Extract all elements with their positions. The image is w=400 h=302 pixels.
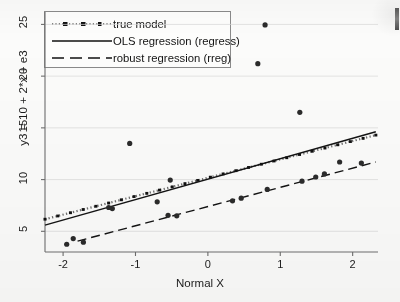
data-point bbox=[127, 141, 132, 146]
data-point bbox=[64, 242, 69, 247]
data-point bbox=[155, 199, 160, 204]
series-line-marker bbox=[56, 215, 59, 218]
y-tick-label: 5 bbox=[17, 209, 29, 249]
data-point bbox=[230, 198, 235, 203]
data-point bbox=[313, 174, 318, 179]
x-axis-title: Normal X bbox=[0, 277, 400, 289]
x-tick-label: -2 bbox=[48, 258, 78, 270]
data-point bbox=[110, 206, 115, 211]
data-point bbox=[71, 236, 76, 241]
data-point bbox=[165, 213, 170, 218]
series-line-marker bbox=[133, 195, 136, 198]
y-tick-label: 20 bbox=[17, 54, 29, 94]
data-point bbox=[168, 178, 173, 183]
y-tick-label: 25 bbox=[17, 2, 29, 42]
data-point bbox=[239, 196, 244, 201]
data-point bbox=[255, 61, 260, 66]
y-tick-label: 15 bbox=[17, 106, 29, 146]
series-line-marker bbox=[44, 218, 47, 221]
figure-canvas: true model OLS regression (regress) robu… bbox=[0, 0, 400, 302]
series-line-marker bbox=[171, 185, 174, 188]
series-line-marker bbox=[349, 140, 352, 143]
x-tick-label: 2 bbox=[338, 258, 368, 270]
data-point bbox=[265, 187, 270, 192]
series-line-marker bbox=[120, 198, 123, 201]
series-line-marker bbox=[107, 202, 110, 205]
x-tick-label: 1 bbox=[265, 258, 295, 270]
series-line-marker bbox=[374, 134, 377, 137]
series-line-marker bbox=[145, 192, 148, 195]
plot-area bbox=[0, 0, 400, 302]
series-line bbox=[45, 132, 376, 225]
x-tick-label: -1 bbox=[120, 258, 150, 270]
x-tick-label: 0 bbox=[193, 258, 223, 270]
data-point bbox=[337, 159, 342, 164]
data-point bbox=[81, 240, 86, 245]
data-point bbox=[299, 179, 304, 184]
y-axis-title: y3 = 10 + 2*x + e3 bbox=[17, 23, 29, 173]
data-point bbox=[262, 22, 267, 27]
series-line-marker bbox=[158, 189, 161, 192]
series-line-marker bbox=[362, 137, 365, 140]
series-line-marker bbox=[336, 143, 339, 146]
data-point bbox=[322, 171, 327, 176]
scan-edge-artifact bbox=[395, 8, 399, 30]
series-line-marker bbox=[82, 208, 85, 211]
data-point bbox=[174, 213, 179, 218]
series-line-marker bbox=[94, 205, 97, 208]
y-tick-label: 10 bbox=[17, 158, 29, 198]
series-line-marker bbox=[69, 211, 72, 214]
data-point bbox=[297, 110, 302, 115]
data-point bbox=[359, 160, 364, 165]
